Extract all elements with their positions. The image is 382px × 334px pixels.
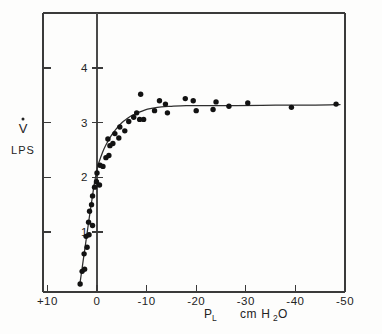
data-point: [245, 100, 250, 105]
data-point: [90, 223, 95, 228]
data-point: [141, 117, 146, 122]
data-point: [163, 101, 168, 106]
x-tick-label-minus50: -50: [336, 295, 354, 307]
data-point: [210, 107, 215, 112]
y-axis-ticks: [43, 68, 103, 232]
x-axis-label-pressure-subscript: L: [212, 313, 217, 323]
data-point: [81, 251, 86, 256]
data-point: [84, 245, 89, 250]
data-point: [194, 108, 199, 113]
y-tick-label-4: 4: [81, 62, 88, 74]
x-axis-label-group: P L cm H 2 O: [204, 307, 288, 323]
data-point: [122, 128, 127, 133]
data-point: [110, 141, 115, 146]
data-point: [92, 184, 97, 189]
v-dot-accent-icon: [22, 118, 25, 121]
data-point: [77, 281, 82, 286]
data-point: [100, 164, 105, 169]
plot-frame: [43, 13, 345, 292]
x-tick-label-minus20: -20: [187, 295, 205, 307]
data-point: [82, 266, 87, 271]
data-point: [191, 98, 196, 103]
data-point: [89, 202, 94, 207]
x-tick-label-plus10: +10: [37, 295, 58, 307]
data-point: [333, 101, 338, 106]
x-tick-label-minus10: -10: [138, 295, 156, 307]
data-point: [116, 135, 121, 140]
x-tick-label-0: 0: [94, 295, 101, 307]
data-point: [165, 110, 170, 115]
data-point: [289, 105, 294, 110]
data-point: [105, 136, 110, 141]
data-point: [117, 124, 122, 129]
data-point: [226, 104, 231, 109]
data-point: [87, 209, 92, 214]
fitted-curve: [80, 105, 340, 286]
y-axis-label-flow: V: [19, 121, 28, 136]
data-point: [112, 131, 117, 136]
data-point: [134, 110, 139, 115]
x-axis-units-prefix: cm H: [240, 307, 270, 321]
data-point: [213, 99, 218, 104]
x-axis-units-suffix: O: [278, 307, 288, 321]
y-axis-label-units: LPS: [11, 144, 35, 156]
x-tick-label-minus40: -40: [286, 295, 304, 307]
data-point: [183, 96, 188, 101]
flow-pressure-scatter-plot: 1234 +100-10-20-30-40-50 V LPS P L cm H …: [0, 0, 382, 334]
x-axis-tick-labels: +100-10-20-30-40-50: [37, 295, 354, 307]
data-point: [94, 170, 99, 175]
data-point: [138, 92, 143, 97]
data-point: [131, 115, 136, 120]
y-tick-label-2: 2: [81, 171, 88, 183]
data-point: [97, 182, 102, 187]
x-tick-label-minus30: -30: [237, 295, 255, 307]
data-point: [106, 153, 111, 158]
x-axis-ticks: [47, 285, 345, 292]
data-point: [126, 119, 131, 124]
data-point: [157, 98, 162, 103]
data-point: [90, 193, 95, 198]
data-point: [152, 108, 157, 113]
data-points-group: [77, 92, 338, 287]
y-tick-label-3: 3: [81, 117, 88, 129]
figure-container: 1234 +100-10-20-30-40-50 V LPS P L cm H …: [0, 0, 382, 334]
y-axis-label-group: V LPS: [11, 118, 35, 157]
data-point: [86, 232, 91, 237]
